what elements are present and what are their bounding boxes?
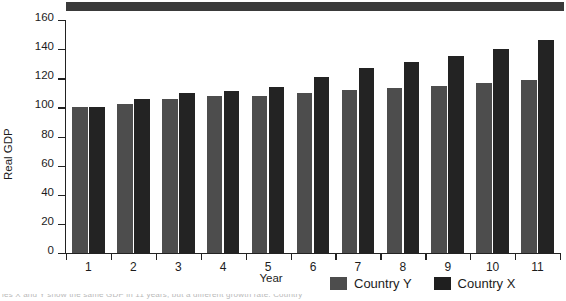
y-axis-title: Real GDP	[2, 128, 14, 180]
y-tick-mark	[58, 78, 65, 79]
x-tick-mark-11	[515, 253, 516, 260]
x-tick-mark-5	[246, 253, 247, 260]
y-tick-mark	[58, 224, 65, 225]
bar-country-x-year-4	[224, 91, 240, 253]
x-tick-mark-6	[291, 253, 292, 260]
x-tick-mark-10	[470, 253, 471, 260]
bar-country-x-year-9	[448, 56, 464, 253]
bar-country-y-year-11	[521, 80, 537, 253]
y-tick-label: 20	[41, 216, 54, 227]
legend-item-country-y[interactable]: Country Y	[330, 277, 412, 290]
y-tick-label: 140	[35, 41, 54, 52]
bar-country-y-year-3	[162, 99, 178, 253]
page-caption-strip: ies X and Y show the same GDP in 11 year…	[0, 294, 566, 301]
y-tick-mark	[58, 166, 65, 167]
x-tick-mark-4	[201, 253, 202, 260]
x-axis-title-text: Year	[259, 272, 282, 284]
y-tick-label: 100	[35, 99, 54, 110]
bar-country-y-year-2	[117, 104, 133, 253]
bar-country-x-year-10	[493, 49, 509, 253]
y-tick-mark	[58, 195, 65, 196]
y-tick-mark	[58, 137, 65, 138]
bar-country-y-year-10	[476, 83, 492, 253]
x-tick-mark-9	[425, 253, 426, 260]
y-tick-label: 80	[41, 129, 54, 140]
bar-country-x-year-1	[89, 107, 105, 253]
x-tick-mark-2	[111, 253, 112, 260]
legend-label-country-x: Country X	[458, 277, 516, 290]
legend-swatch-country-x-icon	[434, 277, 451, 290]
bar-country-y-year-8	[387, 88, 403, 253]
legend-swatch-country-y-icon	[330, 277, 347, 290]
bar-country-y-year-9	[431, 86, 447, 253]
x-tick-mark-3	[156, 253, 157, 260]
bar-country-y-year-6	[297, 93, 313, 253]
bar-country-x-year-2	[134, 99, 150, 253]
bar-country-x-year-11	[538, 40, 554, 253]
bar-country-x-year-5	[269, 87, 285, 253]
y-tick-mark	[58, 20, 65, 21]
bar-country-x-year-3	[179, 93, 195, 253]
legend-item-country-x[interactable]: Country X	[434, 277, 516, 290]
page-caption-text: ies X and Y show the same GDP in 11 year…	[2, 294, 303, 300]
bar-country-x-year-6	[314, 77, 330, 253]
x-tick-mark-end	[560, 253, 561, 260]
y-tick-label: 120	[35, 70, 54, 81]
y-tick-label: 40	[41, 187, 54, 198]
bar-country-y-year-7	[342, 90, 358, 253]
bar-country-y-year-5	[252, 96, 268, 253]
y-tick-label: 0	[48, 245, 54, 256]
y-tick-label: 160	[35, 12, 54, 23]
x-tick-mark-8	[380, 253, 381, 260]
y-axis-title-wrapper: Real GDP	[14, 100, 28, 180]
chart-legend: Country Y Country X	[330, 277, 515, 290]
bar-country-y-year-1	[72, 107, 88, 253]
y-tick-label: 60	[41, 158, 54, 169]
bar-chart: Real GDP 0204060801001201401601234567891…	[0, 0, 566, 265]
y-tick-mark	[58, 49, 65, 50]
legend-label-country-y: Country Y	[354, 277, 412, 290]
bar-country-y-year-4	[207, 96, 223, 253]
bar-country-x-year-7	[359, 68, 375, 253]
x-tick-mark-1	[66, 253, 67, 260]
y-tick-mark	[58, 253, 65, 254]
plot-area	[66, 20, 560, 253]
x-tick-mark-7	[335, 253, 336, 260]
y-tick-mark	[58, 107, 65, 108]
bar-country-x-year-8	[404, 62, 420, 253]
